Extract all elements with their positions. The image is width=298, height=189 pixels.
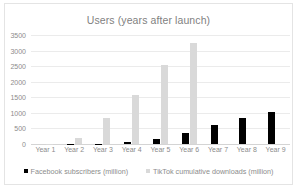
chart-container: Users (years after launch) 0500100015002… bbox=[4, 3, 293, 185]
bars-layer bbox=[31, 35, 290, 144]
x-axis-tick-label: Year 3 bbox=[93, 146, 113, 153]
chart-legend: Facebook subscribers (million)TikTok cum… bbox=[5, 164, 292, 178]
bar-group bbox=[117, 35, 146, 144]
bar-group bbox=[232, 35, 261, 144]
legend-swatch-facebook-icon bbox=[24, 169, 28, 173]
y-axis-labels: 0500100015002000250030003500 bbox=[5, 35, 29, 144]
bar-group bbox=[31, 35, 60, 144]
gridline bbox=[31, 144, 290, 145]
bar-group bbox=[89, 35, 118, 144]
bar[interactable] bbox=[103, 118, 110, 144]
y-axis-tick-label: 3500 bbox=[10, 32, 26, 39]
legend-item[interactable]: Facebook subscribers (million) bbox=[24, 167, 128, 176]
legend-item-label: TikTok cumulative downloads (million) bbox=[153, 167, 273, 176]
bar[interactable] bbox=[182, 133, 189, 144]
bar[interactable] bbox=[124, 142, 131, 144]
x-axis-tick-label: Year 1 bbox=[35, 146, 55, 153]
x-axis-labels: Year 1Year 2Year 3Year 4Year 5Year 6Year… bbox=[31, 146, 290, 158]
x-axis-tick-label: Year 6 bbox=[179, 146, 199, 153]
legend-swatch-tiktok-icon bbox=[146, 169, 150, 173]
bar[interactable] bbox=[268, 112, 275, 144]
legend-item[interactable]: TikTok cumulative downloads (million) bbox=[146, 167, 273, 176]
bar-group bbox=[60, 35, 89, 144]
x-axis-tick-label: Year 4 bbox=[122, 146, 142, 153]
bar-group bbox=[261, 35, 290, 144]
y-axis-tick-label: 1000 bbox=[10, 109, 26, 116]
y-axis-tick-label: 2500 bbox=[10, 63, 26, 70]
bar[interactable] bbox=[211, 125, 218, 144]
bar-group bbox=[204, 35, 233, 144]
x-axis-tick-label: Year 9 bbox=[266, 146, 286, 153]
bar[interactable] bbox=[153, 139, 160, 144]
x-axis-tick-label: Year 7 bbox=[208, 146, 228, 153]
y-axis-tick-label: 0 bbox=[22, 141, 26, 148]
x-axis-tick-label: Year 2 bbox=[64, 146, 84, 153]
bar[interactable] bbox=[239, 118, 246, 144]
x-axis-tick-label: Year 8 bbox=[237, 146, 257, 153]
legend-item-label: Facebook subscribers (million) bbox=[31, 167, 128, 176]
chart-title: Users (years after launch) bbox=[5, 14, 292, 26]
y-axis-tick-label: 2000 bbox=[10, 78, 26, 85]
bar[interactable] bbox=[75, 138, 82, 144]
x-axis-tick-label: Year 5 bbox=[151, 146, 171, 153]
bar[interactable] bbox=[132, 95, 139, 144]
bar-group bbox=[146, 35, 175, 144]
y-axis-tick-label: 3000 bbox=[10, 47, 26, 54]
bar-group bbox=[175, 35, 204, 144]
bar[interactable] bbox=[161, 65, 168, 144]
bar[interactable] bbox=[190, 43, 197, 144]
y-axis-tick-label: 1500 bbox=[10, 94, 26, 101]
y-axis-tick-label: 500 bbox=[14, 125, 26, 132]
